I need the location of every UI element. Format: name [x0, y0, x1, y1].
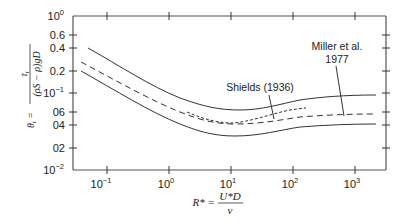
x-tick-1e0: 100	[158, 176, 174, 190]
x-tick-1e3: 103	[344, 176, 360, 190]
x-tick-1e1: 101	[220, 176, 236, 190]
svg-text:U*D: U*D	[219, 190, 240, 202]
svg-text:τt: τt	[18, 70, 31, 77]
svg-text:ν: ν	[228, 204, 233, 216]
miller-annotation-line2: 1977	[325, 53, 349, 65]
y-tick-1e0: 100	[48, 8, 64, 22]
y-tick-0.2: 0.2	[50, 65, 65, 77]
miller-annotation-line1: Miller et al.	[312, 40, 363, 52]
x-ticks	[107, 12, 355, 174]
miller-leader-line	[336, 66, 344, 116]
svg-text:θt =: θt =	[25, 112, 38, 128]
x-tick-labels: 10−1 100 101 102 103	[91, 176, 361, 190]
x-tick-1e2: 102	[282, 176, 298, 190]
y-tick-0.4: 0.4	[50, 42, 65, 54]
y-tick-0.06: 06	[53, 106, 65, 118]
x-axis-label: R* = U*D ν	[192, 190, 243, 216]
shields-annotation: Shields (1936)	[226, 81, 294, 93]
x-tick-1e-1: 10−1	[91, 176, 112, 190]
miller-mean-dashed-curve	[81, 62, 376, 124]
y-tick-1e-1: 10−1	[43, 85, 64, 99]
shields-diagram-chart: 100 0.6 0.4 0.2 10−1 06 04 02 10−2 10−1 …	[0, 0, 406, 223]
y-tick-0.02: 02	[53, 142, 65, 154]
y-tick-labels: 100 0.6 0.4 0.2 10−1 06 04 02 10−2	[43, 8, 65, 176]
y-tick-1e-2: 10−2	[43, 162, 64, 176]
svg-text:(ρS − ρ)gD: (ρS − ρ)gD	[31, 51, 43, 97]
y-tick-0.04: 04	[53, 119, 65, 131]
y-axis-label: θt = τt (ρS − ρ)gD	[18, 44, 43, 128]
svg-text:R* =: R* =	[192, 196, 215, 208]
y-tick-0.6: 0.6	[50, 29, 65, 41]
